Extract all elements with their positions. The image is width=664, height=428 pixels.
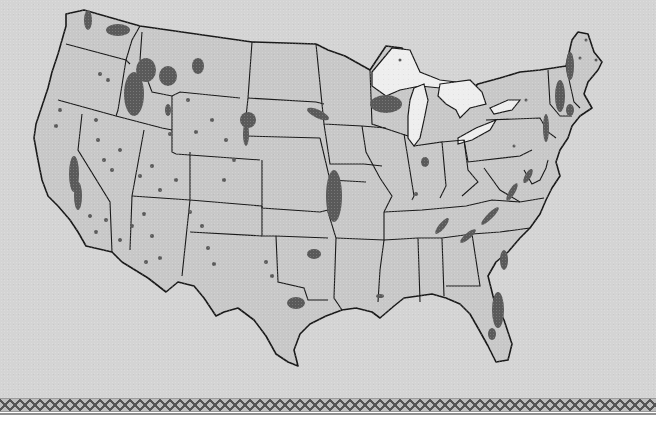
lake-michigan [408,84,428,146]
bottom-rule [0,413,656,415]
us-map [0,0,656,412]
lake-huron [438,80,486,118]
decorative-diamond-border [0,398,656,412]
state-borders [58,26,580,310]
us-land [34,10,602,366]
lake-erie [458,120,496,144]
shaded-regions [69,10,574,340]
shaded-speckles [54,39,598,279]
map-background [0,0,656,412]
lake-superior [372,48,456,96]
lake-ontario [490,100,520,114]
great-lakes [372,48,520,146]
